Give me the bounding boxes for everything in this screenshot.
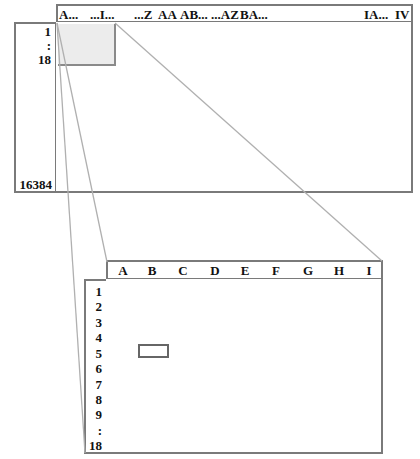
col-i: I: [354, 262, 384, 280]
col-label-aa: AA: [158, 7, 177, 23]
col-a: A: [108, 262, 138, 280]
row-ellipsis: :: [98, 423, 102, 438]
big-sheet-column-header: A... ...I... ...Z AA AB... ...AZ BA... I…: [56, 4, 413, 24]
row-label-16384: 16384: [20, 177, 53, 192]
row-18: 18: [89, 438, 102, 453]
row-label-18: 18: [38, 52, 51, 67]
col-label-z: ...Z: [134, 7, 152, 23]
col-h: H: [324, 262, 354, 280]
zoomed-sheet-body: [106, 279, 383, 454]
row-4: 4: [96, 330, 103, 345]
row-9: 9: [96, 407, 103, 422]
col-label-az: ...AZ: [211, 7, 239, 23]
row-5: 5: [96, 346, 103, 361]
col-c: C: [168, 262, 198, 280]
col-d: D: [200, 262, 230, 280]
col-label-iv: IV: [395, 7, 409, 23]
highlight-region: [58, 24, 116, 66]
row-label-ellipsis: :: [47, 38, 51, 53]
row-3: 3: [96, 315, 103, 330]
selected-cell-b5[interactable]: [138, 344, 169, 358]
zoomed-sheet-column-header: A B C D E F G H I: [106, 260, 383, 281]
row-7: 7: [96, 377, 103, 392]
row-8: 8: [96, 392, 103, 407]
row-label-1: 1: [45, 24, 52, 39]
col-label-a: A...: [59, 7, 78, 23]
col-label-i: ...I...: [90, 7, 115, 23]
col-label-ia: IA...: [364, 7, 388, 23]
col-g: G: [293, 262, 323, 280]
col-label-ba: BA...: [240, 7, 268, 23]
big-sheet-row-header: 1 : 18 16384: [14, 22, 58, 193]
col-f: F: [261, 262, 291, 280]
row-1: 1: [96, 284, 103, 299]
col-e: E: [230, 262, 260, 280]
col-b: B: [137, 262, 167, 280]
col-label-ab: AB...: [180, 7, 208, 23]
row-2: 2: [96, 299, 103, 314]
row-6: 6: [96, 361, 103, 376]
